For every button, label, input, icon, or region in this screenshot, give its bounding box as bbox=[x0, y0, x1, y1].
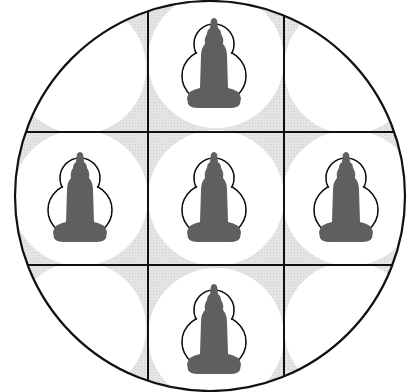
mandala-diagram bbox=[0, 0, 419, 392]
mandala-svg bbox=[0, 0, 419, 392]
